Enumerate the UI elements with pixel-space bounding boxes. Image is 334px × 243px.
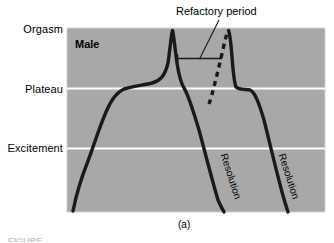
refractory-period-label: Refactory period [176,5,257,17]
panel-subject-label: Male [75,38,99,50]
panel-letter-label: (a) [178,219,190,230]
y-axis-label-excitement: Excitement [0,142,63,154]
figure-container: Orgasm Plateau Excitement Male Refactory… [0,0,334,243]
y-axis-label-plateau: Plateau [0,83,63,95]
caption-sliver: FIGURE [8,236,128,242]
response-cycle-chart [0,0,334,243]
y-axis-label-orgasm: Orgasm [0,23,63,35]
